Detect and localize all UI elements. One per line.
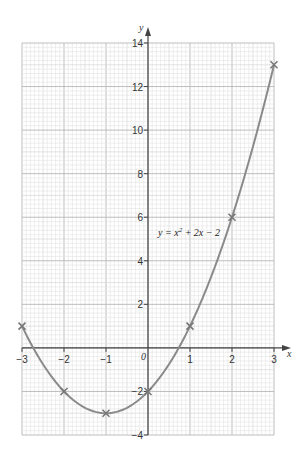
- y-tick-label: 8: [137, 169, 143, 180]
- x-tick-label: 1: [187, 354, 193, 365]
- y-axis-arrow-icon: [145, 27, 151, 36]
- origin-label: 0: [141, 351, 146, 362]
- y-axis-label: y: [138, 22, 144, 33]
- x-tick-label: −2: [58, 354, 70, 365]
- y-tick-label: 10: [132, 125, 144, 136]
- equation-label: y = x2 + 2x − 2: [157, 226, 220, 238]
- y-tick-label: 2: [137, 299, 143, 310]
- x-axis-label: x: [286, 348, 292, 359]
- y-tick-label: −2: [132, 386, 144, 397]
- y-tick-label: 4: [137, 256, 143, 267]
- x-tick-label: 3: [271, 354, 277, 365]
- quadratic-graph: −3−2−1123−4−22468101214 y = x2 + 2x − 2 …: [0, 0, 308, 458]
- x-tick-label: −1: [100, 354, 112, 365]
- x-tick-label: −3: [16, 354, 28, 365]
- y-tick-label: 14: [132, 38, 144, 49]
- y-tick-label: 12: [132, 82, 144, 93]
- y-tick-label: 6: [137, 212, 143, 223]
- y-tick-label: −4: [132, 430, 144, 441]
- x-tick-label: 2: [229, 354, 235, 365]
